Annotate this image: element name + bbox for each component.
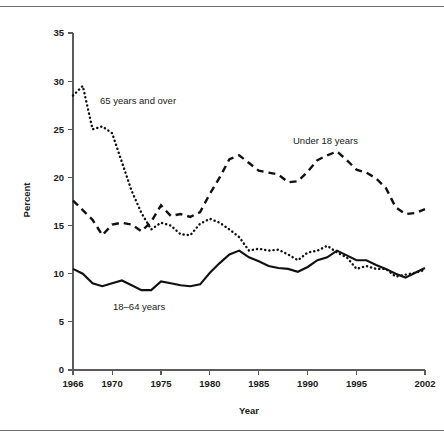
x-axis-tick-group: 19661970197519801985199019952002: [62, 370, 435, 389]
y-tick-label-25: 25: [53, 124, 64, 135]
series-annotation-1: Under 18 years: [293, 135, 358, 146]
top-divider-rule: [0, 6, 444, 7]
x-tick-label-2002: 2002: [414, 378, 435, 389]
series-line-1: [73, 151, 425, 235]
bottom-divider-rule: [0, 430, 444, 431]
x-tick-label-1990: 1990: [297, 378, 318, 389]
x-tick-label-1980: 1980: [199, 378, 220, 389]
x-tick-label-1985: 1985: [248, 378, 270, 389]
y-tick-label-10: 10: [53, 268, 64, 279]
x-tick-label-1966: 1966: [62, 378, 83, 389]
series-annotation-group: 65 years and overUnder 18 years18–64 yea…: [100, 95, 358, 312]
y-tick-label-20: 20: [53, 172, 64, 183]
series-annotation-2: 18–64 years: [113, 301, 166, 312]
y-tick-label-15: 15: [53, 220, 64, 231]
data-series-group: [73, 86, 425, 290]
series-annotation-0: 65 years and over: [100, 95, 176, 106]
series-line-2: [73, 251, 425, 290]
y-tick-label-0: 0: [59, 364, 64, 375]
y-tick-label-35: 35: [53, 27, 64, 38]
line-chart: 05101520253035 1966197019751980198519901…: [0, 0, 444, 424]
series-line-0: [73, 86, 425, 277]
y-axis-tick-group: 05101520253035: [53, 27, 73, 375]
figure-container: 05101520253035 1966197019751980198519901…: [0, 0, 444, 438]
y-tick-label-30: 30: [53, 76, 64, 87]
x-tick-label-1970: 1970: [102, 378, 123, 389]
x-axis-title: Year: [239, 405, 259, 416]
y-axis-title: Percent: [21, 182, 32, 218]
x-tick-label-1975: 1975: [150, 378, 172, 389]
x-tick-label-1995: 1995: [346, 378, 368, 389]
y-tick-label-5: 5: [59, 316, 65, 327]
